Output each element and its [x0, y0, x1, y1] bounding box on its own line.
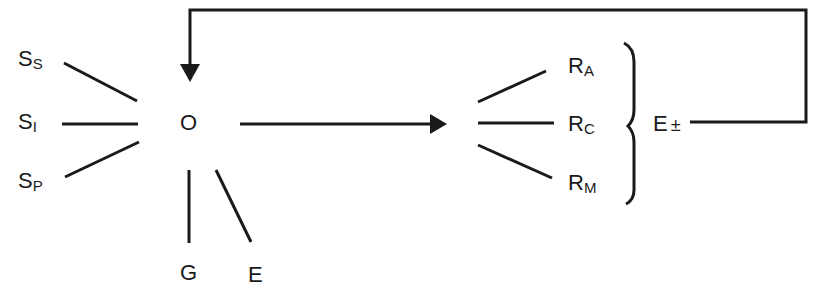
response-rc-main: R: [568, 111, 584, 136]
response-rm-label: RM: [568, 172, 596, 194]
outcome-label: E±: [653, 113, 681, 135]
response-ra-sub: A: [584, 62, 594, 79]
connector-ss-o: [64, 63, 137, 101]
response-rc-label: RC: [568, 113, 595, 135]
genetic-label: G: [180, 262, 197, 284]
brace-icon: [624, 43, 634, 204]
response-rm-main: R: [568, 170, 584, 195]
arrow-head-down-icon: [180, 64, 200, 82]
stimulus-si-main: S: [18, 109, 33, 134]
diagram-lines: [0, 0, 819, 291]
sorke-diagram: SS SI SP O G E RA RC RM E±: [0, 0, 819, 291]
response-ra-main: R: [568, 53, 584, 78]
connector-rm: [478, 145, 552, 178]
outcome-sign: ±: [671, 115, 681, 135]
stimulus-ss-main: S: [18, 46, 33, 71]
connector-ra: [478, 71, 546, 102]
connector-e-o: [216, 170, 251, 242]
feedback-loop-line: [190, 10, 806, 122]
response-ra-label: RA: [568, 55, 594, 77]
stimulus-sp-sub: P: [33, 177, 43, 194]
stimulus-si-label: SI: [18, 111, 37, 133]
environment-label: E: [248, 264, 263, 286]
connector-sp-o: [65, 142, 139, 177]
response-rc-sub: C: [584, 120, 595, 137]
organism-label: O: [180, 112, 197, 134]
stimulus-si-sub: I: [33, 118, 37, 135]
stimulus-sp-label: SP: [18, 170, 43, 192]
outcome-main: E: [653, 111, 668, 136]
stimulus-ss-label: SS: [18, 48, 43, 70]
stimulus-ss-sub: S: [33, 55, 43, 72]
arrow-head-right-icon: [430, 114, 447, 134]
stimulus-sp-main: S: [18, 168, 33, 193]
response-rm-sub: M: [584, 179, 597, 196]
